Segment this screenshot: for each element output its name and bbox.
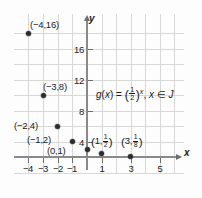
gridline-horizontal — [14, 64, 184, 65]
equation-paren-open: ( — [125, 88, 129, 102]
element-of-icon: ∈ — [157, 89, 166, 100]
point-label-1-x: 1, — [95, 135, 103, 146]
data-point — [99, 151, 104, 156]
y-axis-label: y — [89, 13, 95, 24]
gridline-horizontal — [14, 126, 184, 127]
fraction-numerator: 1 — [133, 134, 139, 141]
point-label-minus4-16: (−4,16) — [30, 19, 59, 30]
data-point — [55, 124, 60, 129]
paren-close: ) — [139, 136, 143, 148]
point-label-3-x: 3, — [125, 135, 133, 146]
equation-equals: = — [116, 89, 122, 100]
point-label-1-one-half: (1,12) — [91, 134, 112, 149]
point-label-minus2-4: (−2,4) — [14, 120, 38, 131]
gridline-horizontal — [14, 80, 184, 81]
y-tick-12 — [88, 80, 93, 81]
point-label-3-one-eighth: (3,18) — [121, 134, 142, 149]
fraction-denominator: 2 — [103, 141, 109, 149]
x-tick-label-1: 1 — [93, 163, 111, 174]
equation-domain-set: J — [169, 89, 174, 100]
x-axis-arrow-icon — [176, 154, 182, 160]
gridline-vertical — [28, 14, 29, 174]
gridline-horizontal — [14, 111, 184, 112]
paren-close: ) — [109, 136, 113, 148]
point-label-minus3-8: (−3,8) — [43, 81, 67, 92]
point-label-0-1: (0,1) — [47, 145, 66, 156]
data-point — [128, 154, 133, 159]
equation-arg-close: ) — [110, 89, 113, 100]
coordinate-graph-figure: 16 12 8 4 −4 −3 −2 −1 1 3 5 y x (−4,16) … — [0, 0, 202, 198]
equation-comma: , — [143, 89, 146, 100]
y-tick-label-8: 8 — [60, 106, 84, 117]
gridline-horizontal — [14, 33, 184, 34]
data-point — [70, 139, 75, 144]
equation-domain-variable: x — [149, 89, 154, 100]
x-tick-label-minus1: −1 — [61, 163, 83, 174]
x-axis-label: x — [184, 147, 190, 158]
y-tick-16 — [88, 49, 93, 50]
fraction-numerator: 1 — [129, 86, 135, 93]
x-tick-label-5: 5 — [151, 163, 169, 174]
y-tick-label-16: 16 — [60, 44, 84, 55]
fraction-one-half: 12 — [129, 86, 135, 102]
y-tick-8 — [88, 111, 93, 112]
x-tick-label-3: 3 — [122, 163, 140, 174]
point-label-minus1-2: (−1,2) — [27, 134, 51, 145]
data-point — [41, 93, 46, 98]
plot-area: 16 12 8 4 −4 −3 −2 −1 1 3 5 y x (−4,16) … — [14, 14, 184, 174]
fraction-numerator: 1 — [103, 134, 109, 141]
gridline-vertical — [174, 14, 175, 174]
function-equation-annotation: g(x) = (12)x, x ∈ J — [96, 86, 174, 102]
data-point — [26, 31, 31, 36]
x-axis — [14, 156, 176, 158]
fraction-denominator: 2 — [129, 93, 135, 101]
fraction-denominator: 8 — [133, 141, 139, 149]
gridline-vertical — [72, 14, 73, 174]
data-point — [85, 147, 90, 152]
fraction-one-eighth: 18 — [133, 134, 139, 149]
fraction-one-half: 12 — [103, 134, 109, 149]
gridline-horizontal — [14, 49, 184, 50]
